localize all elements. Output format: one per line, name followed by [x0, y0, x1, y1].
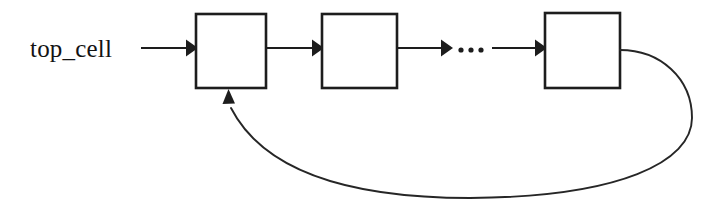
arrow-second-to-ellipsis	[397, 40, 453, 57]
cell-box-second[interactable]	[322, 14, 397, 88]
diagram-canvas: top_cell	[0, 0, 722, 211]
arrow-label-to-first	[141, 40, 198, 57]
arrow-ellipsis-to-last	[492, 40, 547, 57]
ellipsis-indicator	[458, 47, 483, 52]
arrowhead-icon	[441, 40, 453, 57]
cell-box-last[interactable]	[545, 13, 620, 88]
cell-box-first[interactable]	[196, 14, 266, 88]
block-diagram: top_cell	[0, 0, 722, 211]
feedback-loop-arrow	[223, 50, 693, 198]
arrow-first-to-second	[266, 40, 324, 57]
arrowhead-icon	[223, 89, 236, 104]
top-cell-label: top_cell	[30, 35, 112, 62]
